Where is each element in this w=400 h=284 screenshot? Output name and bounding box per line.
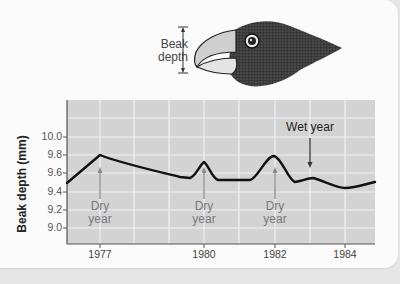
dry-year-annotation: Dry year xyxy=(184,200,224,226)
dry-year-annotation: Dry year xyxy=(80,200,120,226)
y-tick-label: 9.6 xyxy=(36,166,62,178)
y-tick-label: 9.2 xyxy=(36,203,62,215)
y-axis-label: Beak depth (mm) xyxy=(15,135,29,232)
x-tick-label: 1984 xyxy=(325,248,365,260)
x-tick-label: 1977 xyxy=(80,248,120,260)
annotation-line2: year xyxy=(184,213,224,226)
figure-card: Beak depth xyxy=(0,0,398,268)
y-tick-label: 10.0 xyxy=(36,130,62,142)
dry-year-annotation: Dry year xyxy=(255,200,295,226)
wet-year-annotation: Wet year xyxy=(275,121,345,134)
annotation-line2: year xyxy=(80,213,120,226)
beak-depth-dimension-icon xyxy=(178,27,188,73)
y-tick-label: 9.0 xyxy=(36,221,62,233)
x-tick-label: 1982 xyxy=(255,248,295,260)
finch-head-illustration xyxy=(195,21,342,86)
annotation-line2: year xyxy=(255,213,295,226)
y-tick-label: 9.4 xyxy=(36,185,62,197)
x-tick-label: 1980 xyxy=(184,248,224,260)
y-tick-label: 9.8 xyxy=(36,148,62,160)
